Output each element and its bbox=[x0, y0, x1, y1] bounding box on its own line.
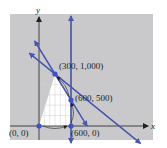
vertex-point bbox=[36, 123, 41, 128]
x-axis-label: x bbox=[150, 121, 155, 131]
feasible-region-diagram: x y (0, 0)(600, 0)(600, 500)(300, 1,000) bbox=[0, 0, 167, 148]
vertex-point bbox=[68, 97, 73, 102]
vertex-label: (300, 1,000) bbox=[59, 61, 103, 71]
vertex-point bbox=[52, 71, 57, 76]
vertex-label: (600, 500) bbox=[75, 93, 113, 103]
background-panel bbox=[10, 14, 153, 140]
vertex-label: (0, 0) bbox=[9, 128, 29, 138]
y-axis-label: y bbox=[35, 5, 40, 15]
vertex-label: (600, 0) bbox=[71, 128, 100, 138]
